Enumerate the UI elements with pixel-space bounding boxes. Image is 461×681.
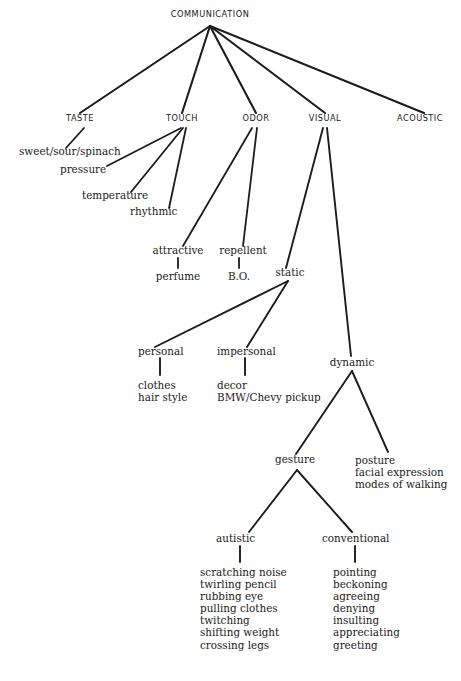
node-sweet-sour-spinach: sweet/sour/spinach [19,146,121,158]
leaf-item: facial expression [355,466,447,478]
node-body-odor: B.O. [228,271,250,283]
edge-root-touch [182,26,210,113]
leaf-item: beckoning [333,578,400,590]
leaf-item: rubbing eye [200,590,287,602]
edge-root-taste [80,26,210,113]
edge-root-odor [210,26,256,113]
edge-gesture-conventional [297,470,352,532]
edge-odor-attractive [183,128,252,246]
leaf-list-posture: posturefacial expressionmodes of walking [355,454,447,490]
leaf-item: appreciating [333,626,400,638]
leaf-list-personal: clotheshair style [138,379,187,403]
node-static: static [275,267,304,279]
leaf-list-autistic: scratching noisetwirling pencilrubbing e… [200,566,287,651]
leaf-item: twirling pencil [200,578,287,590]
edge-visual-static [286,128,323,268]
leaf-list-impersonal: decorBMW/Chevy pickup [217,379,321,403]
node-visual: VISUAL [309,113,341,125]
node-pressure: pressure [60,164,106,176]
node-rhythmic: rhythmic [130,206,177,218]
leaf-list-conventional: pointingbeckoningagreeingdenyinginsultin… [333,566,400,651]
edge-touch-rhythmic [169,128,186,208]
node-gesture: gesture [275,454,315,466]
leaf-item: denying [333,602,400,614]
leaf-item: clothes [138,379,187,391]
node-odor: ODOR [243,113,270,125]
leaf-item: pointing [333,566,400,578]
leaf-item: twitching [200,614,287,626]
leaf-item: hair style [138,391,187,403]
edge-dynamic-posture [352,371,388,452]
node-taste: TASTE [66,113,94,125]
node-repellent: repellent [219,245,267,257]
node-attractive: attractive [152,245,203,257]
edge-odor-repellent [243,128,257,246]
node-conventional: conventional [322,533,389,545]
node-temperature: temperature [82,190,148,202]
leaf-item: modes of walking [355,478,447,490]
diagram-canvas: COMMUNICATION TASTE TOUCH ODOR VISUAL AC… [0,0,461,681]
leaf-item: posture [355,454,447,466]
leaf-item: scratching noise [200,566,287,578]
edge-visual-dynamic [327,128,351,356]
leaf-item: crossing legs [200,639,287,651]
node-autistic: autistic [216,533,255,545]
node-impersonal: impersonal [217,346,276,358]
edge-root-visual [210,26,325,113]
node-perfume: perfume [156,271,200,283]
node-personal: personal [138,346,184,358]
leaf-item: BMW/Chevy pickup [217,391,321,403]
leaf-item: agreeing [333,590,400,602]
node-touch: TOUCH [166,113,198,125]
leaf-item: pulling clothes [200,602,287,614]
leaf-item: decor [217,379,321,391]
leaf-item: insulting [333,614,400,626]
node-dynamic: dynamic [330,357,374,369]
leaf-item: greeting [333,639,400,651]
node-acoustic: ACOUSTIC [397,113,443,125]
leaf-item: shifting weight [200,626,287,638]
edge-gesture-autistic [249,470,297,532]
node-communication: COMMUNICATION [171,9,250,21]
edge-root-acoustic [210,26,424,113]
